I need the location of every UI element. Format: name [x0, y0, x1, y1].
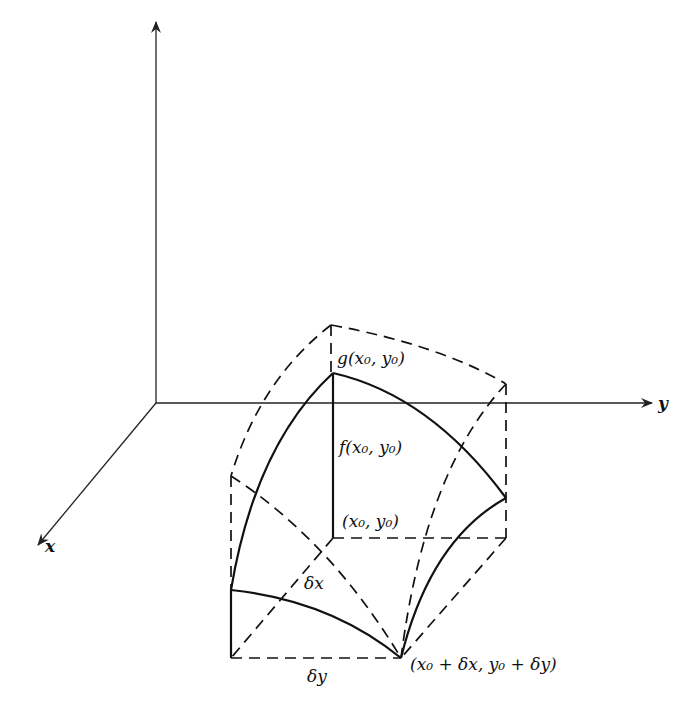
y-axis-label: y	[657, 393, 669, 413]
vertical-edges	[231, 325, 506, 658]
labels: y x g(x₀, y₀) f(x₀, y₀) (x₀, y₀) (x₀ + δ…	[44, 348, 669, 686]
base-point-label: (x₀, y₀)	[342, 511, 399, 531]
f-point-label: f(x₀, y₀)	[337, 437, 402, 457]
volume-element-diagram: y x g(x₀, y₀) f(x₀, y₀) (x₀, y₀) (x₀ + δ…	[0, 0, 685, 712]
g-point-label: g(x₀, y₀)	[337, 348, 405, 368]
upper-surface-g	[231, 325, 506, 658]
axes	[38, 22, 652, 545]
x-axis-label: x	[44, 536, 56, 556]
delta-y-label: δy	[307, 666, 327, 686]
corner-point-label: (x₀ + δx, y₀ + δy)	[410, 654, 557, 674]
delta-x-label: δx	[304, 573, 324, 593]
x-axis	[38, 403, 156, 545]
base-region	[231, 538, 506, 658]
